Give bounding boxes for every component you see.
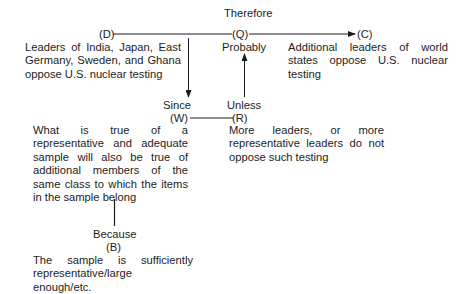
- because-label: Because: [93, 228, 137, 241]
- since-label: Since: [163, 99, 191, 112]
- claim-text: Additional leaders of world states oppos…: [288, 41, 448, 81]
- backing-text: The sample is sufficiently representativ…: [33, 254, 193, 294]
- warrant-text: What is true of a representative and ade…: [33, 124, 188, 204]
- data-label: (D): [99, 28, 115, 41]
- qualifier-label: (Q): [232, 28, 248, 41]
- claim-label: (C): [357, 28, 373, 41]
- unless-label: Unless: [227, 99, 261, 112]
- probably-label: Probably: [222, 41, 266, 54]
- therefore-label: Therefore: [224, 7, 273, 20]
- backing-label: (B): [106, 241, 121, 254]
- rebuttal-text: More leaders, or more representative lea…: [229, 124, 384, 164]
- data-text: Leaders of India, Japan, East Germany, S…: [25, 41, 181, 81]
